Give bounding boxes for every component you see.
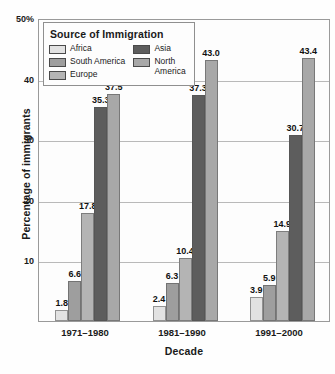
bar-north-america-2[interactable] <box>205 60 218 321</box>
legend: Source of Immigration Africa South Ameri… <box>43 22 195 86</box>
bar-south-america-1[interactable] <box>68 281 81 321</box>
legend-item-south-america[interactable]: South America <box>49 57 129 67</box>
bar-north-america-3[interactable] <box>302 58 315 321</box>
bar-asia-2[interactable] <box>192 95 205 321</box>
legend-label-europe: Europe <box>70 70 97 80</box>
bar-africa-2[interactable] <box>153 306 166 321</box>
legend-item-africa[interactable]: Africa <box>49 44 129 54</box>
bar-label-north-america-3: 43.4 <box>295 46 322 56</box>
legend-label-asia: Asia <box>154 44 171 54</box>
bar-label-north-america-2: 43.0 <box>198 48 225 58</box>
legend-column-left: Africa South America Europe <box>49 44 129 80</box>
bar-asia-3[interactable] <box>289 135 302 321</box>
bar-europe-1[interactable] <box>81 213 94 321</box>
x-tick-1981-1990: 1981–1990 <box>158 327 206 338</box>
legend-swatch-europe <box>49 71 66 80</box>
legend-title: Source of Immigration <box>50 28 189 40</box>
bar-north-america-1[interactable] <box>107 94 120 321</box>
legend-swatch-north-america <box>133 58 150 67</box>
bar-south-america-2[interactable] <box>166 283 179 321</box>
y-tick-30: 30 <box>4 135 34 145</box>
legend-swatch-africa <box>49 45 66 54</box>
bar-group-3: 3.95.914.930.743.4 <box>250 20 315 321</box>
x-tick-1991-2000: 1991–2000 <box>255 327 303 338</box>
legend-swatch-south-america <box>49 58 66 67</box>
bar-africa-3[interactable] <box>250 297 263 321</box>
y-tick-50: 50% <box>4 14 34 24</box>
legend-item-asia[interactable]: Asia <box>133 44 189 54</box>
legend-label-africa: Africa <box>70 44 92 54</box>
legend-column-right: Asia North America <box>133 44 189 80</box>
bar-chart: Percentage of immigrants 50% 40 30 20 10… <box>0 0 335 374</box>
bar-africa-1[interactable] <box>55 310 68 321</box>
legend-label-north-america: North America <box>154 57 189 76</box>
y-tick-20: 20 <box>4 196 34 206</box>
legend-item-north-america[interactable]: North America <box>133 57 189 76</box>
legend-item-europe[interactable]: Europe <box>49 70 129 80</box>
bar-asia-1[interactable] <box>94 107 107 321</box>
y-axis-ticks: 50% 40 30 20 10 <box>0 0 34 374</box>
legend-swatch-asia <box>133 45 150 54</box>
bar-south-america-3[interactable] <box>263 285 276 321</box>
x-axis-title: Decade <box>38 345 330 357</box>
y-tick-10: 10 <box>4 256 34 266</box>
y-tick-40: 40 <box>4 75 34 85</box>
legend-label-south-america: South America <box>70 57 125 67</box>
bar-europe-3[interactable] <box>276 231 289 321</box>
bar-europe-2[interactable] <box>179 258 192 321</box>
x-tick-1971-1980: 1971–1980 <box>61 327 109 338</box>
